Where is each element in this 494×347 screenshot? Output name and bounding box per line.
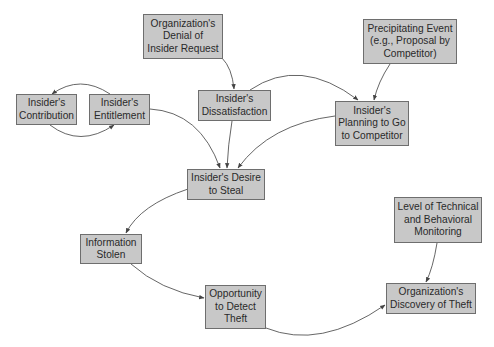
node-label: Opportunity to Detect Theft <box>209 288 262 325</box>
node-dissatisfaction: Insider's Dissatisfaction <box>198 90 271 121</box>
node-entitlement: Insider's Entitlement <box>89 94 150 125</box>
node-label: Information Stolen <box>86 237 137 262</box>
node-label: Level of Technical and Behavioral Monito… <box>398 201 479 238</box>
node-label: Insider's Entitlement <box>94 97 145 122</box>
node-precipitating: Precipitating Event (e.g., Proposal by C… <box>363 19 457 64</box>
edge-dissatisfaction-to-desire <box>227 121 232 168</box>
edge-denial-to-dissatisfaction <box>222 58 234 89</box>
node-stolen: Information Stolen <box>80 234 142 264</box>
node-discovery: Organization's Discovery of Theft <box>386 283 476 314</box>
edge-contribution-to-entitlement <box>50 125 114 137</box>
node-opportunity: Opportunity to Detect Theft <box>205 285 266 329</box>
node-desire: Insider's Desire to Steal <box>187 169 265 200</box>
edge-stolen-to-opportunity <box>131 264 204 298</box>
node-contribution: Insider's Contribution <box>16 94 77 125</box>
node-label: Precipitating Event (e.g., Proposal by C… <box>368 23 453 60</box>
node-label: Insider's Contribution <box>19 97 74 122</box>
node-monitoring: Level of Technical and Behavioral Monito… <box>394 197 482 243</box>
edge-desire-to-stolen <box>126 189 188 233</box>
node-label: Insider's Desire to Steal <box>191 172 261 197</box>
node-label: Organization's Discovery of Theft <box>390 286 472 311</box>
node-planning: Insider's Planning to Go to Competitor <box>335 101 409 146</box>
edge-entitlement-to-contribution <box>52 84 110 94</box>
edge-opportunity-to-discovery <box>266 305 385 335</box>
causal-loop-diagram: Organization's Denial of Insider Request… <box>0 0 494 347</box>
node-label: Insider's Planning to Go to Competitor <box>338 105 405 142</box>
edge-monitoring-to-discovery <box>426 243 437 282</box>
edge-planning-to-desire <box>238 116 335 168</box>
node-denial: Organization's Denial of Insider Request <box>143 14 223 59</box>
node-label: Insider's Dissatisfaction <box>202 93 268 118</box>
edge-precipitating-to-planning <box>374 64 390 100</box>
node-label: Organization's Denial of Insider Request <box>147 18 218 55</box>
